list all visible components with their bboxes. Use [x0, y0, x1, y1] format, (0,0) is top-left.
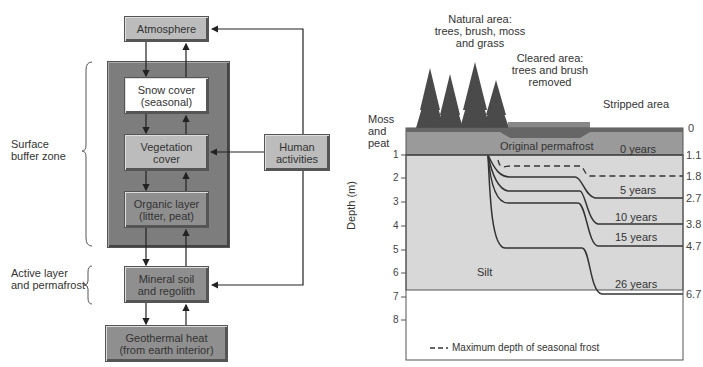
y-tick-8: 8 — [393, 314, 399, 325]
right-value-2-7: 2.7 — [686, 192, 701, 204]
curve-label-26y: 26 years — [615, 278, 657, 290]
y-tick-5: 5 — [393, 244, 399, 255]
y-axis-label: Depth (m) — [345, 181, 357, 230]
right-value-0: 0 — [688, 122, 694, 134]
right-value-3-8: 3.8 — [686, 218, 701, 230]
y-tick-3: 3 — [393, 196, 399, 207]
legend-seasonal-frost: Maximum depth of seasonal frost — [452, 342, 599, 354]
right-value-1-8: 1.8 — [686, 170, 701, 182]
y-tick-7: 7 — [393, 291, 399, 302]
curve-label-15y: 15 years — [615, 231, 657, 243]
y-tick-4: 4 — [393, 220, 399, 231]
curve-label-0y: 0 years — [620, 143, 656, 155]
y-tick-2: 2 — [393, 172, 399, 183]
y-tick-1: 1 — [393, 149, 399, 160]
original-permafrost-label: Original permafrost — [500, 140, 594, 152]
curve-label-5y: 5 years — [620, 184, 656, 196]
right-value-1-1: 1.1 — [686, 149, 701, 161]
right-value-6-7: 6.7 — [686, 288, 701, 300]
silt-label: Silt — [477, 266, 492, 278]
y-tick-6: 6 — [393, 267, 399, 278]
right-value-4-7: 4.7 — [686, 240, 701, 252]
left-arrows — [0, 0, 340, 367]
curve-label-10y: 10 years — [615, 211, 657, 223]
